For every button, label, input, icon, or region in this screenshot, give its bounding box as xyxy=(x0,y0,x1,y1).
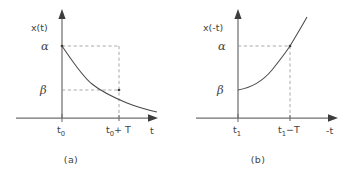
panel-a-x-axis xyxy=(16,114,158,122)
panel-a-xtick-t0T-suffix: + T xyxy=(114,124,131,135)
panel-a-xtick-t0: t0 xyxy=(57,124,65,138)
panel-a: x(t) α β t0 t0+ T t (a) xyxy=(16,9,158,165)
panel-b-caption: (b) xyxy=(251,154,266,165)
panel-b-y-axis-label: x(-t) xyxy=(203,22,223,33)
panel-a-y-axis-label: x(t) xyxy=(31,22,48,33)
panel-a-y-axis xyxy=(58,9,65,118)
figure-svg: x(t) α β t0 t0+ T t (a) xyxy=(0,0,361,174)
panel-a-ytick-alpha: α xyxy=(41,39,49,53)
panel-b-curve xyxy=(238,17,307,90)
svg-text:t1: t1 xyxy=(233,124,241,138)
panel-b-ytick-alpha: α xyxy=(218,39,226,53)
panel-b-ytick-beta: β xyxy=(216,83,224,97)
panel-b-xtick-t1-minus-T: t1−T xyxy=(278,124,300,138)
panel-a-ytick-beta: β xyxy=(39,83,47,97)
panel-b: x(-t) α β t1 t1−T -t (b) xyxy=(196,9,338,165)
panel-a-xtick-t0-sub: 0 xyxy=(61,130,65,138)
panel-b-y-axis xyxy=(234,9,241,118)
panel-b-xtick-t1T-suffix: −T xyxy=(286,124,300,135)
panel-b-x-axis xyxy=(196,114,338,122)
panel-a-curve xyxy=(61,45,157,112)
svg-text:t1−T: t1−T xyxy=(278,124,300,138)
svg-text:t0: t0 xyxy=(57,124,65,138)
panel-a-guides xyxy=(62,46,119,118)
panel-b-xtick-t1: t1 xyxy=(233,124,241,138)
panel-b-x-axis-label: -t xyxy=(326,125,333,136)
panel-a-x-axis-label: t xyxy=(150,125,154,136)
figure-container: x(t) α β t0 t0+ T t (a) xyxy=(0,0,361,174)
panel-a-xtick-t0-plus-T: t0+ T xyxy=(106,124,131,138)
svg-text:t0+ T: t0+ T xyxy=(106,124,131,138)
panel-a-caption: (a) xyxy=(64,154,78,165)
panel-b-xtick-t1-sub: 1 xyxy=(237,130,241,138)
